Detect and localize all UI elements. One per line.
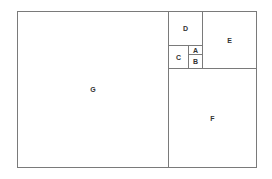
region-a-label: A: [193, 47, 198, 54]
region-f-label: F: [210, 115, 214, 122]
golden-rectangle-diagram: G F E D C A B: [0, 0, 272, 179]
region-f: F: [168, 68, 257, 168]
region-b: B: [188, 54, 203, 69]
region-g: G: [17, 11, 169, 168]
region-e-label: E: [227, 37, 232, 44]
region-c-label: C: [176, 54, 181, 61]
region-b-label: B: [193, 58, 198, 65]
region-c: C: [168, 45, 189, 69]
region-e: E: [202, 11, 257, 69]
region-d: D: [168, 11, 203, 46]
region-g-label: G: [90, 86, 95, 93]
region-d-label: D: [183, 25, 188, 32]
